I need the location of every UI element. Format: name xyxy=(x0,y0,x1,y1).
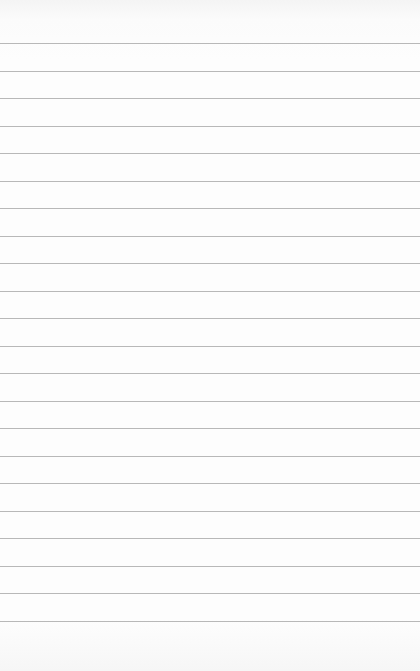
ruled-line xyxy=(0,126,420,127)
ruled-line xyxy=(0,208,420,209)
ruled-line xyxy=(0,346,420,347)
ruled-line xyxy=(0,71,420,72)
ruled-line xyxy=(0,621,420,622)
ruled-line xyxy=(0,98,420,99)
ruled-line xyxy=(0,236,420,237)
ruled-line xyxy=(0,318,420,319)
ruled-line xyxy=(0,456,420,457)
ruled-line xyxy=(0,181,420,182)
ruled-line xyxy=(0,263,420,264)
ruled-line xyxy=(0,511,420,512)
ruled-line xyxy=(0,373,420,374)
ruled-line xyxy=(0,291,420,292)
ruled-line xyxy=(0,483,420,484)
ruled-line xyxy=(0,153,420,154)
ruled-line xyxy=(0,428,420,429)
ruled-line xyxy=(0,43,420,44)
ruled-line xyxy=(0,566,420,567)
lined-paper-sheet xyxy=(0,0,420,671)
ruled-line xyxy=(0,401,420,402)
ruled-line xyxy=(0,538,420,539)
ruled-line xyxy=(0,593,420,594)
